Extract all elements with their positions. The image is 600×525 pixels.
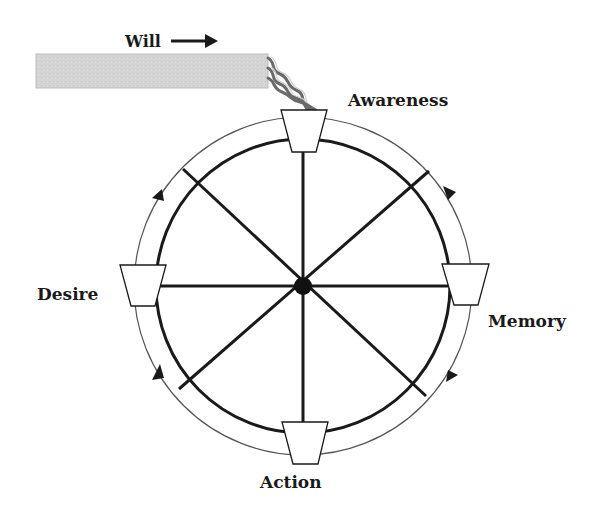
wheel-diagram: Will Aw xyxy=(0,0,600,525)
bucket-action xyxy=(282,422,328,464)
bucket-awareness xyxy=(281,110,327,152)
arrow-head-icon xyxy=(443,186,456,200)
label-desire: Desire xyxy=(37,284,99,304)
label-memory: Memory xyxy=(488,311,567,331)
will-label: Will xyxy=(124,32,161,51)
will-bar xyxy=(36,54,268,88)
bucket-desire xyxy=(120,265,166,306)
right-arrow-icon xyxy=(171,34,218,48)
arrow-head-icon xyxy=(152,189,164,201)
label-action: Action xyxy=(259,472,322,492)
label-awareness: Awareness xyxy=(347,90,448,110)
hub xyxy=(294,277,312,295)
will-stream xyxy=(268,57,316,110)
arrow-head-icon xyxy=(446,370,458,382)
